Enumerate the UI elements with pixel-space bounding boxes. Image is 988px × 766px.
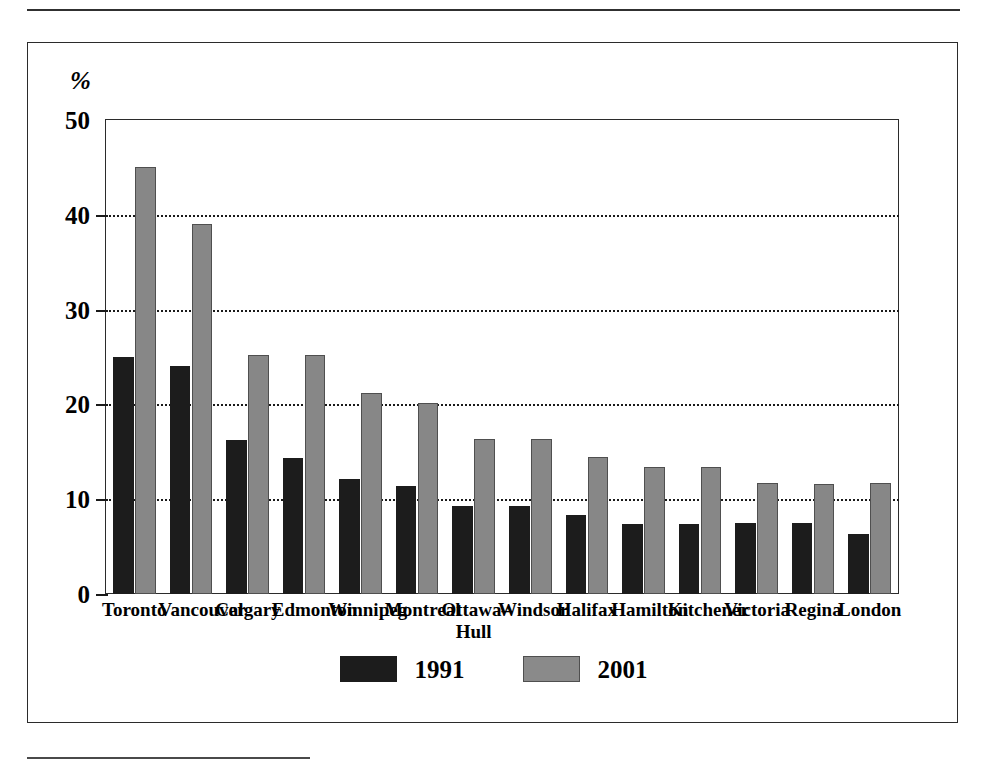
bar-kitchener-1991 (679, 524, 700, 594)
x-axis-labels-layer: TorontoVancouverCalgaryEdmontonWinnipegM… (106, 599, 899, 659)
bar-halifax-2001 (588, 457, 609, 594)
legend-item-1991: 1991 (340, 656, 465, 682)
x-axis-label-calgary: Calgary (215, 599, 280, 621)
x-axis-label-windsor: Windsor (498, 599, 563, 621)
y-axis-unit-label: % (70, 68, 91, 93)
y-axis-label-0: 0 (28, 582, 90, 607)
bottom-divider-rule (27, 757, 310, 759)
bar-victoria-2001 (757, 483, 778, 594)
x-axis-label-regina: Regina (781, 599, 846, 621)
bar-ottawa--hull-1991 (452, 506, 473, 594)
bar-victoria-1991 (735, 523, 756, 594)
bar-vancouver-1991 (170, 366, 191, 594)
bar-montreal-2001 (418, 403, 439, 594)
bar-toronto-2001 (135, 167, 156, 594)
bar-chart: % 01020304050 TorontoVancouverCalgaryEdm… (28, 43, 959, 724)
bar-calgary-1991 (226, 440, 247, 594)
x-axis-label-vancouver: Vancouver (159, 599, 224, 621)
x-axis-label-london: London (837, 599, 902, 621)
bar-winnipeg-2001 (361, 393, 382, 594)
bar-kitchener-2001 (701, 467, 722, 594)
x-axis-label-montreal: Montreal (385, 599, 450, 621)
chart-legend: 19912001 (28, 656, 959, 682)
bar-regina-1991 (792, 523, 813, 594)
bar-hamilton-2001 (644, 467, 665, 594)
bar-vancouver-2001 (192, 224, 213, 594)
y-tick-0 (96, 594, 108, 596)
bar-windsor-2001 (531, 439, 552, 594)
legend-label-2001: 2001 (598, 657, 648, 682)
bar-edmonton-2001 (305, 355, 326, 594)
bars-layer (106, 120, 898, 594)
bar-winnipeg-1991 (339, 479, 360, 594)
bar-ottawa--hull-2001 (474, 439, 495, 594)
bar-regina-2001 (814, 484, 835, 594)
y-axis-label-10: 10 (28, 487, 90, 512)
top-divider-rule (27, 9, 960, 11)
y-axis-label-30: 30 (28, 297, 90, 322)
x-axis-label-halifax: Halifax (555, 599, 620, 621)
y-axis-label-20: 20 (28, 392, 90, 417)
y-axis-label-40: 40 (28, 202, 90, 227)
legend-swatch-1991 (340, 656, 397, 682)
legend-swatch-2001 (523, 656, 580, 682)
x-axis-label-winnipeg: Winnipeg (328, 599, 393, 621)
bar-edmonton-1991 (283, 458, 304, 595)
bar-montreal-1991 (396, 486, 417, 594)
legend-item-2001: 2001 (523, 656, 648, 682)
y-axis-label-50: 50 (28, 108, 90, 133)
x-axis-label-victoria: Victoria (724, 599, 789, 621)
figure-frame: % 01020304050 TorontoVancouverCalgaryEdm… (27, 42, 958, 723)
legend-label-1991: 1991 (415, 657, 465, 682)
x-axis-label-hamilton: Hamilton (611, 599, 676, 621)
bar-london-2001 (870, 483, 891, 594)
bar-windsor-1991 (509, 506, 530, 594)
bar-calgary-2001 (248, 355, 269, 594)
bar-toronto-1991 (113, 357, 134, 594)
x-axis-label-toronto: Toronto (102, 599, 167, 621)
bar-london-1991 (848, 534, 869, 594)
bar-hamilton-1991 (622, 524, 643, 594)
x-axis-label-kitchener: Kitchener (668, 599, 733, 621)
x-axis-label-ottawa--hull: Ottawa– Hull (441, 599, 506, 643)
x-axis-label-edmonton: Edmonton (272, 599, 337, 621)
bar-halifax-1991 (566, 515, 587, 594)
